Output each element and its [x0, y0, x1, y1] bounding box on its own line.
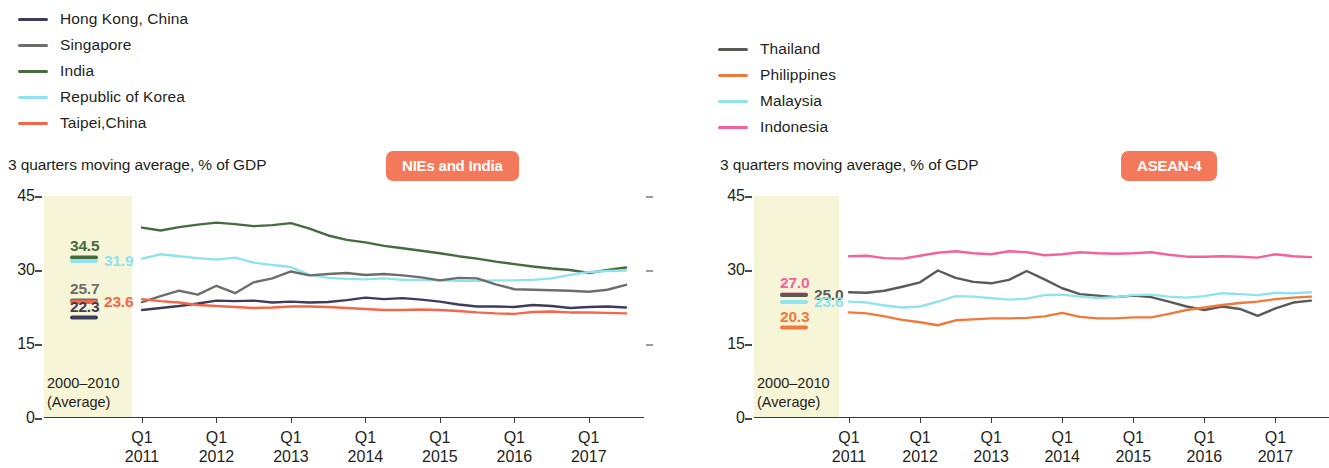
y-axis-tick — [35, 196, 42, 198]
x-axis-label-year: 2017 — [1258, 447, 1294, 466]
y-axis-label: 45 — [17, 187, 35, 205]
annotation-dash-icon — [780, 300, 808, 304]
x-axis-label: Q12014 — [348, 428, 384, 466]
x-axis-label: Q12013 — [273, 428, 309, 466]
x-axis-tick — [849, 418, 850, 423]
y-axis-tick — [745, 418, 752, 420]
y-axis-tick — [745, 196, 752, 198]
x-axis-label-quarter: Q1 — [571, 428, 607, 447]
annotation-value: 20.3 — [780, 307, 809, 325]
legend-item: India — [18, 58, 188, 84]
x-axis-label: Q12017 — [1258, 428, 1294, 466]
x-axis-label: Q12012 — [199, 428, 235, 466]
x-axis-label: Q12015 — [422, 428, 458, 466]
x-axis-tick — [991, 418, 992, 423]
legend-item-label: Malaysia — [760, 92, 822, 110]
x-axis-label-year: 2011 — [832, 447, 866, 466]
legend-nies-and-india: Hong Kong, China Singapore India Republi… — [18, 6, 188, 136]
x-axis-tick — [142, 418, 143, 423]
chart-panel-asean-4: Thailand Philippines Malaysia Indonesia … — [710, 0, 1329, 468]
x-axis-label-year: 2012 — [902, 447, 938, 466]
legend-swatch-icon — [718, 48, 748, 51]
legend-item-label: India — [60, 62, 94, 80]
legend-item: Philippines — [718, 62, 836, 88]
figure-root: Hong Kong, China Singapore India Republi… — [0, 0, 1329, 468]
x-axis-label: Q12011 — [125, 428, 159, 466]
series-line — [142, 223, 626, 273]
x-axis-label: Q12014 — [1044, 428, 1080, 466]
legend-swatch-icon — [718, 126, 748, 129]
legend-item: Taipei,China — [18, 110, 188, 136]
annotation-value: 23.6 — [814, 293, 843, 311]
x-axis-tick — [365, 418, 366, 423]
y-axis-tick — [35, 344, 42, 346]
legend-item-label: Hong Kong, China — [60, 10, 188, 28]
x-axis-label-year: 2014 — [1044, 447, 1080, 466]
y-axis-tick — [745, 344, 752, 346]
x-axis-label: Q12016 — [1187, 428, 1223, 466]
x-axis-label-quarter: Q1 — [1116, 428, 1152, 447]
band-value-annotation: 31.9 — [70, 252, 133, 270]
x-axis-label-quarter: Q1 — [348, 428, 384, 447]
y-axis-tick — [35, 418, 42, 420]
series-line — [142, 298, 626, 310]
x-axis-label-quarter: Q1 — [497, 428, 533, 447]
y-axis-label: 0 — [26, 409, 35, 427]
chart-panel-nies-and-india: Hong Kong, China Singapore India Republi… — [0, 0, 664, 468]
series-line — [142, 271, 626, 302]
chart-subtitle: 3 quarters moving average, % of GDP — [720, 156, 978, 174]
x-axis-label: Q12017 — [571, 428, 607, 466]
x-axis-tick — [1204, 418, 1205, 423]
x-axis-label-quarter: Q1 — [1187, 428, 1223, 447]
annotation-value: 22.3 — [70, 297, 99, 315]
legend-swatch-icon — [18, 122, 48, 125]
y-axis-tick — [35, 270, 42, 272]
y-axis-label: 30 — [17, 261, 35, 279]
legend-item: Singapore — [18, 32, 188, 58]
x-axis-label-quarter: Q1 — [125, 428, 159, 447]
annotation-value: 23.6 — [104, 293, 133, 311]
chart-badge: NIEs and India — [386, 151, 519, 181]
x-axis-tick — [1275, 418, 1276, 423]
x-axis-label-quarter: Q1 — [973, 428, 1009, 447]
legend-item: Thailand — [718, 36, 836, 62]
legend-item: Republic of Korea — [18, 84, 188, 110]
series-lines — [44, 196, 644, 418]
legend-item: Hong Kong, China — [18, 6, 188, 32]
legend-item-label: Republic of Korea — [60, 88, 185, 106]
legend-item: Indonesia — [718, 114, 836, 140]
y-axis-label: 15 — [727, 335, 745, 353]
x-axis-label: Q12015 — [1116, 428, 1152, 466]
y-axis-label: 15 — [17, 335, 35, 353]
x-axis-label-quarter: Q1 — [832, 428, 866, 447]
x-axis-label-quarter: Q1 — [199, 428, 235, 447]
plot-area: 2000–2010 (Average) 0153045Q12011Q12012Q… — [44, 196, 644, 418]
legend-item-label: Philippines — [760, 66, 836, 84]
annotation-dash-icon — [70, 259, 98, 263]
y-axis-label: 45 — [727, 187, 745, 205]
x-axis-label-quarter: Q1 — [1258, 428, 1294, 447]
x-axis-tick — [440, 418, 441, 423]
x-axis-label-quarter: Q1 — [902, 428, 938, 447]
y-axis-label: 0 — [736, 409, 745, 427]
plot-area: 2000–2010 (Average) 0153045Q12011Q12012Q… — [754, 196, 1329, 418]
x-axis-tick — [291, 418, 292, 423]
x-axis-tick — [920, 418, 921, 423]
x-axis-label-quarter: Q1 — [273, 428, 309, 447]
x-axis-tick — [1133, 418, 1134, 423]
legend-item-label: Thailand — [760, 40, 820, 58]
x-axis-tick — [514, 418, 515, 423]
y-axis-label: 30 — [727, 261, 745, 279]
chart-badge: ASEAN-4 — [1121, 151, 1217, 181]
legend-swatch-icon — [18, 96, 48, 99]
legend-swatch-icon — [18, 70, 48, 73]
x-axis-tick — [589, 418, 590, 423]
legend-item: Malaysia — [718, 88, 836, 114]
x-axis-label: Q12011 — [832, 428, 866, 466]
legend-item-label: Indonesia — [760, 118, 828, 136]
x-axis-label-year: 2014 — [348, 447, 384, 466]
annotation-dash-icon — [780, 325, 808, 329]
annotation-dash-icon — [70, 315, 98, 319]
legend-swatch-icon — [718, 100, 748, 103]
band-value-annotation: 22.3 — [70, 296, 99, 319]
